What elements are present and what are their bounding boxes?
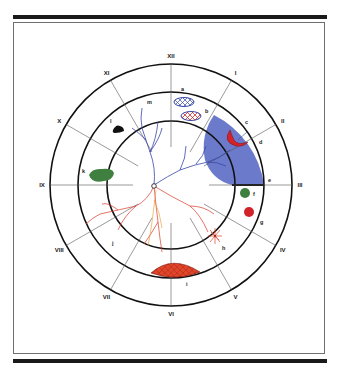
lattice-a [174, 98, 194, 107]
spoke-x [66, 125, 138, 167]
green-pigment-k [89, 169, 114, 182]
clock-label-vi: VI [168, 311, 174, 317]
label-h: h [222, 245, 226, 251]
label-f: f [253, 191, 255, 197]
label-b: b [205, 108, 209, 114]
clock-label-xii: XII [167, 53, 175, 59]
spoke-vii [111, 218, 153, 290]
optic-disc [152, 184, 157, 189]
spoke-xi [111, 80, 153, 152]
label-e: e [268, 177, 271, 183]
clock-label-x: X [57, 118, 61, 124]
clock-label-vii: VII [103, 294, 111, 300]
label-d: d [259, 139, 262, 145]
clock-label-ix: IX [39, 182, 45, 188]
clock-label-iii: III [297, 182, 302, 188]
label-k: k [82, 168, 86, 174]
green-dot-f [240, 188, 250, 198]
label-m: m [147, 99, 152, 105]
red-dot-g [244, 207, 254, 217]
label-i: i [186, 281, 188, 287]
label-c: c [245, 119, 248, 125]
label-g: g [260, 219, 263, 225]
label-l: l [110, 118, 112, 124]
star-lesion-h [208, 228, 222, 244]
clock-label-viii: VIII [55, 247, 64, 253]
arteries-j [86, 186, 214, 252]
clock-label-ii: II [281, 118, 285, 124]
clock-label-xi: XI [104, 70, 110, 76]
clock-label-i: I [235, 70, 237, 76]
clock-label-iv: IV [280, 247, 286, 253]
lesion-labels: a b c d e f g h i j k l m [82, 86, 271, 287]
black-pigment-l [113, 126, 124, 134]
lattice-b [181, 112, 201, 121]
label-a: a [181, 86, 185, 92]
spoke-viii [66, 204, 138, 246]
clock-label-v: V [233, 294, 237, 300]
spoke-v [190, 218, 232, 290]
fundus-chart: XIIIIIIIIIVVVIVIIVIIIIXXXI [0, 0, 343, 373]
label-j: j [111, 240, 114, 246]
